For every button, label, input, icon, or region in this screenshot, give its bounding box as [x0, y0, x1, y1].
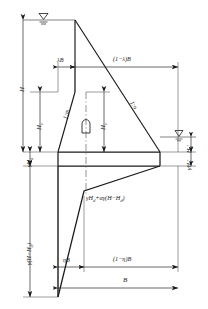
label-Hs: Hs	[36, 123, 45, 130]
dam-body-outline	[58, 20, 160, 152]
diagram-canvas: H Hs Hs γHd γ(H−Hd) λB (1−λ)B 1:m 1:n γH…	[0, 0, 208, 309]
label-eta-B: ηB	[63, 257, 70, 263]
label-H: H	[19, 87, 26, 92]
dim-one-minus-lambda-B	[75, 62, 178, 152]
label-one-minus-eta-B: (1−η)B	[113, 256, 131, 262]
dim-H	[23, 20, 58, 152]
water-level-triangle-icon	[39, 14, 48, 25]
label-gamma-Hd-prime: γHd′	[186, 159, 195, 170]
label-B: B	[123, 277, 127, 284]
label-Hs-inner: Hs	[100, 123, 109, 130]
uplift-pressure-diagram	[58, 166, 160, 297]
label-gamma-H-minus-Hd: γ(H−Hd)	[26, 243, 35, 265]
label-lambda-B: λB	[57, 57, 63, 63]
label-pressure-expression: γHd+αγ(H−Hd)	[86, 195, 125, 204]
label-one-minus-lambda-B: (1−λ)B	[113, 56, 131, 62]
dim-lambda-B	[58, 62, 75, 92]
dam-base-slab	[58, 152, 160, 166]
water-level-triangle-icon-downstream	[175, 131, 183, 141]
dim-Hs	[30, 92, 58, 152]
dim-gamma-H-minus-Hd	[23, 166, 58, 297]
label-gamma-Hd: γHd	[26, 158, 35, 167]
label-Hd-prime: Hd′	[186, 145, 195, 153]
